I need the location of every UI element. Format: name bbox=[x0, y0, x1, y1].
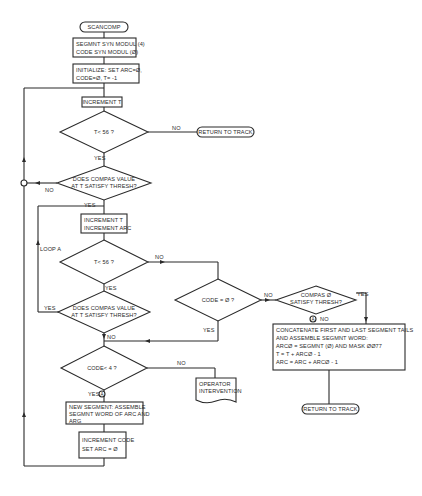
decision-compas-thresh-second: DOES COMPAS VALUE AT T SATISFY THRESH? bbox=[58, 291, 150, 333]
new-segment-line-2: SEGMNT WORD OF ARC AND bbox=[69, 411, 150, 417]
process-initialize: INITIALIZE: SET ARC=Ø, CODE=Ø, T= -1 bbox=[73, 64, 142, 83]
no-label: NO bbox=[107, 334, 116, 340]
new-segment-line-1: NEW SEGMENT: ASSEMBLE bbox=[69, 404, 146, 410]
new-segment-line-3: ARG bbox=[69, 418, 81, 424]
no-label: NO bbox=[155, 254, 164, 260]
compas-thresh-first-line-2: AT T SATISFY THRESH? bbox=[71, 183, 136, 189]
decision-t-lt-56-first: T< 56 ? bbox=[60, 111, 148, 153]
terminator-return-to-track-2: RETURN TO TRACK bbox=[302, 404, 359, 414]
yes-label: YES bbox=[357, 291, 369, 297]
t-lt-56-second-label: T< 56 ? bbox=[94, 259, 114, 265]
compas-thresh-second-line-2: AT T SATISFY THRESH? bbox=[71, 312, 136, 318]
increment-t-label: INCREMENT T bbox=[82, 99, 122, 105]
start-terminator-scancomp: SCANCOMP bbox=[80, 22, 128, 32]
process-increment-t-arc: INCREMENT T INCREMENT ARC bbox=[81, 214, 132, 233]
terminator-return-to-track-1: RETURN TO TRACK bbox=[197, 127, 254, 137]
operator-line-2: INTERVENTION bbox=[199, 388, 242, 394]
yes-label: YES bbox=[44, 305, 56, 311]
start-label: SCANCOMP bbox=[87, 24, 120, 30]
operator-line-1: OPERATOR bbox=[199, 381, 231, 387]
junction-connector bbox=[21, 180, 27, 186]
compas-thresh-second-line-1: DOES COMPAS VALUE bbox=[73, 305, 136, 311]
yes-label: YES bbox=[84, 202, 96, 208]
increment-code-line-2: SET ARC = Ø bbox=[82, 446, 118, 452]
return-track-2-label: RETURN TO TRACK bbox=[303, 406, 358, 412]
yes-label: YES bbox=[94, 155, 106, 161]
svg-text:A: A bbox=[311, 317, 314, 322]
initialize-line-2: CODE=Ø, T= -1 bbox=[76, 75, 117, 81]
process-concatenate-segment-tails: CONCATENATE FIRST AND LAST SEGMENT TAILS… bbox=[273, 324, 413, 370]
compas-thresh-first-line-1: DOES COMPAS VALUE bbox=[73, 176, 136, 182]
yes-label: YES bbox=[88, 391, 100, 397]
process-segmnt-modul: SEGMNT SYN MODUL (4) CODE SYN MODUL (Ø) bbox=[73, 38, 145, 57]
increment-t-arc-line-1: INCREMENT T bbox=[84, 217, 124, 223]
compas-0-line-2: SATISFY THRESH? bbox=[290, 299, 342, 305]
no-label: NO bbox=[45, 187, 54, 193]
concatenate-line-5: ARC = ARC + ARCØ - 1 bbox=[276, 359, 338, 365]
off-page-connector-a-right: A bbox=[310, 316, 316, 322]
svg-text:A: A bbox=[100, 392, 103, 397]
concatenate-line-1: CONCATENATE FIRST AND LAST SEGMENT TAILS bbox=[276, 327, 413, 333]
process-increment-t: INCREMENT T bbox=[82, 97, 122, 107]
compas-0-line-1: COMPAS Ø bbox=[301, 292, 332, 298]
yes-label: YES bbox=[105, 285, 117, 291]
segmnt-modul-line-2: CODE SYN MODUL (Ø) bbox=[76, 49, 138, 55]
no-label: NO bbox=[320, 316, 329, 322]
increment-t-arc-line-2: INCREMENT ARC bbox=[84, 225, 132, 231]
decision-compas-0-thresh: COMPAS Ø SATISFY THRESH? bbox=[276, 286, 356, 314]
code-lt-4-label: CODE< 4 ? bbox=[87, 365, 117, 371]
no-label: NO bbox=[172, 125, 181, 131]
concatenate-line-3: ARCØ = SEGMNT (Ø) AND MASK ØØ77 bbox=[276, 343, 382, 349]
yes-label: YES bbox=[203, 327, 215, 333]
concatenate-line-2: AND ASSEMBLE SEGMNT WORD: bbox=[276, 335, 368, 341]
code-eq-0-label: CODE = Ø ? bbox=[202, 297, 235, 303]
decision-code-eq-0: CODE = Ø ? bbox=[175, 279, 261, 321]
decision-t-lt-56-second: T< 56 ? bbox=[60, 240, 148, 284]
segmnt-modul-line-1: SEGMNT SYN MODUL (4) bbox=[76, 41, 145, 47]
decision-code-lt-4: CODE< 4 ? bbox=[61, 346, 147, 390]
no-label: NO bbox=[264, 292, 273, 298]
document-operator-intervention: OPERATOR INTERVENTION bbox=[196, 378, 242, 403]
decision-compas-thresh-first: DOES COMPAS VALUE AT T SATISFY THRESH? bbox=[57, 166, 151, 200]
no-label: NO bbox=[177, 360, 186, 366]
loop-a-label: LOOP A bbox=[40, 246, 61, 252]
t-lt-56-first-label: T< 56 ? bbox=[94, 129, 114, 135]
connector-lines bbox=[24, 32, 366, 466]
off-page-connector-a-left: A bbox=[99, 391, 105, 397]
process-new-segment: NEW SEGMENT: ASSEMBLE SEGMNT WORD OF ARC… bbox=[66, 402, 150, 424]
increment-code-line-1: INCREMENT CODE bbox=[82, 437, 134, 443]
initialize-line-1: INITIALIZE: SET ARC=Ø, bbox=[76, 67, 142, 73]
return-track-1-label: RETURN TO TRACK bbox=[198, 129, 253, 135]
concatenate-line-4: T = T + ARCØ - 1 bbox=[276, 351, 321, 357]
process-increment-code: INCREMENT CODE SET ARC = Ø bbox=[79, 432, 134, 458]
flowchart-canvas: SCANCOMP SEGMNT SYN MODUL (4) CODE SYN M… bbox=[0, 0, 422, 496]
